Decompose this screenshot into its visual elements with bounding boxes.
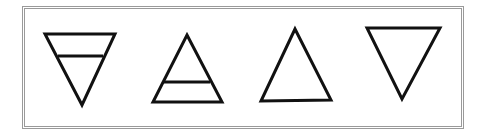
element-symbols <box>0 0 479 133</box>
fire-symbol-icon <box>261 29 331 101</box>
water-symbol-icon <box>367 28 440 99</box>
earth-symbol-icon <box>45 34 115 105</box>
air-symbol-icon <box>153 35 222 102</box>
